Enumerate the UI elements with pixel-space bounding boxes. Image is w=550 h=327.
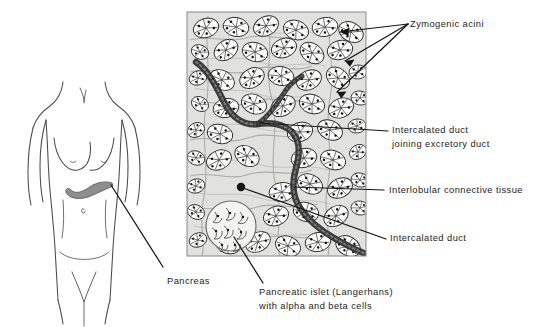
label-interlobular-connective-tissue: Interlobular connective tissue: [389, 184, 523, 198]
intercalated-duct-marker: [237, 183, 245, 191]
pancreatic-islet: [206, 201, 256, 251]
pancreas-figure: Zymogenic acini Intercalated duct joinin…: [0, 0, 550, 327]
label-pancreatic-islet: Pancreatic islet (Langerhans) with alpha…: [259, 286, 439, 313]
label-intercalated-duct: Intercalated duct: [390, 232, 466, 246]
label-line-1: Intercalated duct: [392, 125, 468, 135]
label-intercalated-duct-joining: Intercalated duct joining excretory duct: [392, 124, 542, 151]
label-line-2: joining excretory duct: [392, 139, 490, 149]
label-pancreas: Pancreas: [167, 275, 210, 289]
label-line-2: with alpha and beta cells: [259, 301, 372, 311]
label-line-1: Pancreatic islet (Langerhans): [259, 287, 393, 297]
pancreas-organ: [66, 182, 113, 199]
leader-pancreas: [111, 185, 163, 267]
figure-canvas: [0, 0, 550, 327]
label-zymogenic-acini: Zymogenic acini: [410, 18, 484, 32]
